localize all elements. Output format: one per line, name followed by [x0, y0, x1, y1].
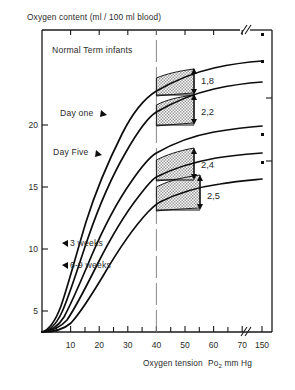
mmhg-text: mm Hg: [222, 358, 252, 368]
x-tick-60: 60: [209, 340, 219, 350]
x-tick-70: 70: [237, 340, 247, 350]
value-label-3: 2,4: [201, 159, 214, 170]
x-axis-label-oxygen-tension: Oxygen tension: [143, 358, 203, 368]
curve-label-normal-term: Normal Term infants: [52, 45, 133, 55]
oxygen-dissociation-chart: Oxygen content (ml / 100 ml blood): [0, 0, 295, 390]
y-tick-15: 15: [29, 182, 39, 192]
y-tick-labels: 20 15 10 5: [29, 120, 39, 316]
y-tick-10: 10: [29, 244, 39, 254]
marker-day-one: [261, 60, 264, 63]
bottom-axis-ticks: [56, 326, 262, 332]
right-side-markers: [261, 33, 264, 164]
x-tick-30: 30: [123, 340, 133, 350]
chart-title: Oxygen content (ml / 100 ml blood): [27, 12, 161, 22]
marker-3-weeks: [261, 161, 264, 164]
curve-label-day-five: Day Five: [53, 147, 89, 157]
x-tick-20: 20: [94, 340, 104, 350]
marker-day-five: [261, 133, 264, 136]
curve-6-9-weeks: [42, 179, 262, 332]
right-axis-ticks: [266, 98, 272, 161]
shaded-region-2: [156, 95, 194, 126]
y-tick-5: 5: [33, 306, 38, 316]
x-tick-150: 150: [255, 340, 269, 350]
curve-label-6-9-weeks: 6-9 weeks: [70, 260, 111, 270]
x-axis-label-po2: Po2 mm Hg: [208, 358, 252, 369]
curve-label-day-one: Day one: [60, 108, 93, 118]
shaded-region-1: [156, 69, 194, 96]
x-tick-10: 10: [66, 340, 76, 350]
value-label-4: 2,5: [207, 190, 220, 201]
x-tick-50: 50: [180, 340, 190, 350]
x-tick-labels: 10 20 30 40 50 60 70: [66, 340, 247, 350]
po-text: Po: [208, 358, 219, 368]
y-tick-20: 20: [29, 120, 39, 130]
value-label-2: 2,2: [201, 106, 214, 117]
x-tick-40: 40: [152, 340, 162, 350]
y-axis-ticks: [42, 125, 48, 311]
marker-normal-term: [261, 33, 264, 36]
curve-normal-term-infants: [42, 61, 262, 332]
curve-label-3-weeks: 3 weeks: [70, 238, 103, 248]
value-label-1: 1,8: [201, 75, 214, 86]
